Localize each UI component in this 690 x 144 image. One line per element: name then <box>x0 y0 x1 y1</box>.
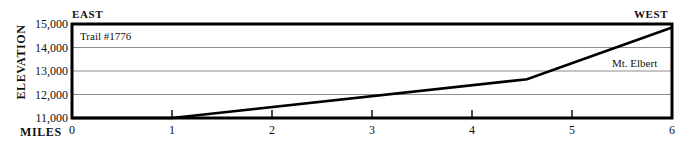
elevation-profile-line <box>72 28 672 118</box>
peak-name-annotation: Mt. Elbert <box>612 58 657 69</box>
trail-name-annotation: Trail #1776 <box>80 31 131 42</box>
elevation-profile-figure: EAST WEST ELEVATION MILES 11,00012,00013… <box>0 0 690 144</box>
gridlines <box>72 48 672 95</box>
plot-area <box>0 0 690 144</box>
